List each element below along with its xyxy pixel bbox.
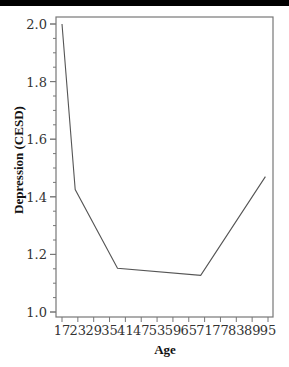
x-tick-label: 77 bbox=[212, 323, 229, 338]
x-tick-label: 17 bbox=[54, 323, 71, 338]
x-axis-title: Age bbox=[154, 342, 176, 357]
y-tick-label: 1.4 bbox=[26, 190, 47, 205]
x-tick-label: 41 bbox=[117, 323, 134, 338]
y-tick-label: 1.0 bbox=[26, 305, 47, 320]
x-tick-label: 35 bbox=[101, 323, 118, 338]
y-tick-label: 1.2 bbox=[26, 247, 47, 262]
x-tick-label: 89 bbox=[244, 323, 261, 338]
x-tick-label: 95 bbox=[260, 323, 277, 338]
y-axis: 1.01.21.41.61.82.0 bbox=[26, 17, 56, 320]
x-tick-label: 47 bbox=[133, 323, 150, 338]
y-tick-label: 1.8 bbox=[26, 75, 47, 90]
x-tick-label: 53 bbox=[149, 323, 166, 338]
y-tick-label: 1.6 bbox=[26, 132, 47, 147]
x-tick-label: 83 bbox=[228, 323, 245, 338]
x-tick-label: 59 bbox=[165, 323, 182, 338]
x-tick-label: 23 bbox=[70, 323, 87, 338]
x-tick-label: 71 bbox=[196, 323, 213, 338]
x-tick-label: 29 bbox=[85, 323, 102, 338]
x-tick-label: 65 bbox=[180, 323, 197, 338]
line-chart: 1.01.21.41.61.82.0 172329354147535965717… bbox=[0, 0, 289, 367]
data-series bbox=[62, 24, 265, 275]
x-axis: 1723293541475359657177838995 bbox=[54, 317, 277, 338]
series-line bbox=[62, 24, 265, 275]
y-tick-label: 2.0 bbox=[26, 17, 47, 32]
y-axis-title: Depression (CESD) bbox=[11, 106, 26, 214]
